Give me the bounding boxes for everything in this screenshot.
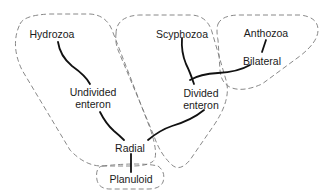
node-scyphozoa: Scyphozoa xyxy=(156,28,208,40)
node-undivided-enteron-line1: Undivided xyxy=(70,86,117,98)
node-undivided-enteron: Undivided enteron xyxy=(70,86,117,110)
edge-hydrozoa-undivided xyxy=(58,42,90,84)
edge-bilateral-divided xyxy=(190,65,250,80)
node-radial: Radial xyxy=(115,142,145,154)
node-undivided-enteron-line2: enteron xyxy=(70,98,117,110)
edge-anthozoa-bilateral xyxy=(262,40,266,52)
node-divided-enteron: Divided enteron xyxy=(183,87,219,111)
edge-divided-radial xyxy=(148,110,204,140)
edge-scyphozoa-divided xyxy=(182,38,194,84)
edge-undivided-radial xyxy=(100,112,124,140)
node-planuloid: Planuloid xyxy=(109,173,152,185)
node-divided-enteron-line2: enteron xyxy=(183,99,219,111)
node-divided-enteron-line1: Divided xyxy=(183,87,219,99)
node-bilateral: Bilateral xyxy=(243,55,281,67)
node-hydrozoa: Hydrozoa xyxy=(30,28,75,40)
node-anthozoa: Anthozoa xyxy=(244,27,288,39)
